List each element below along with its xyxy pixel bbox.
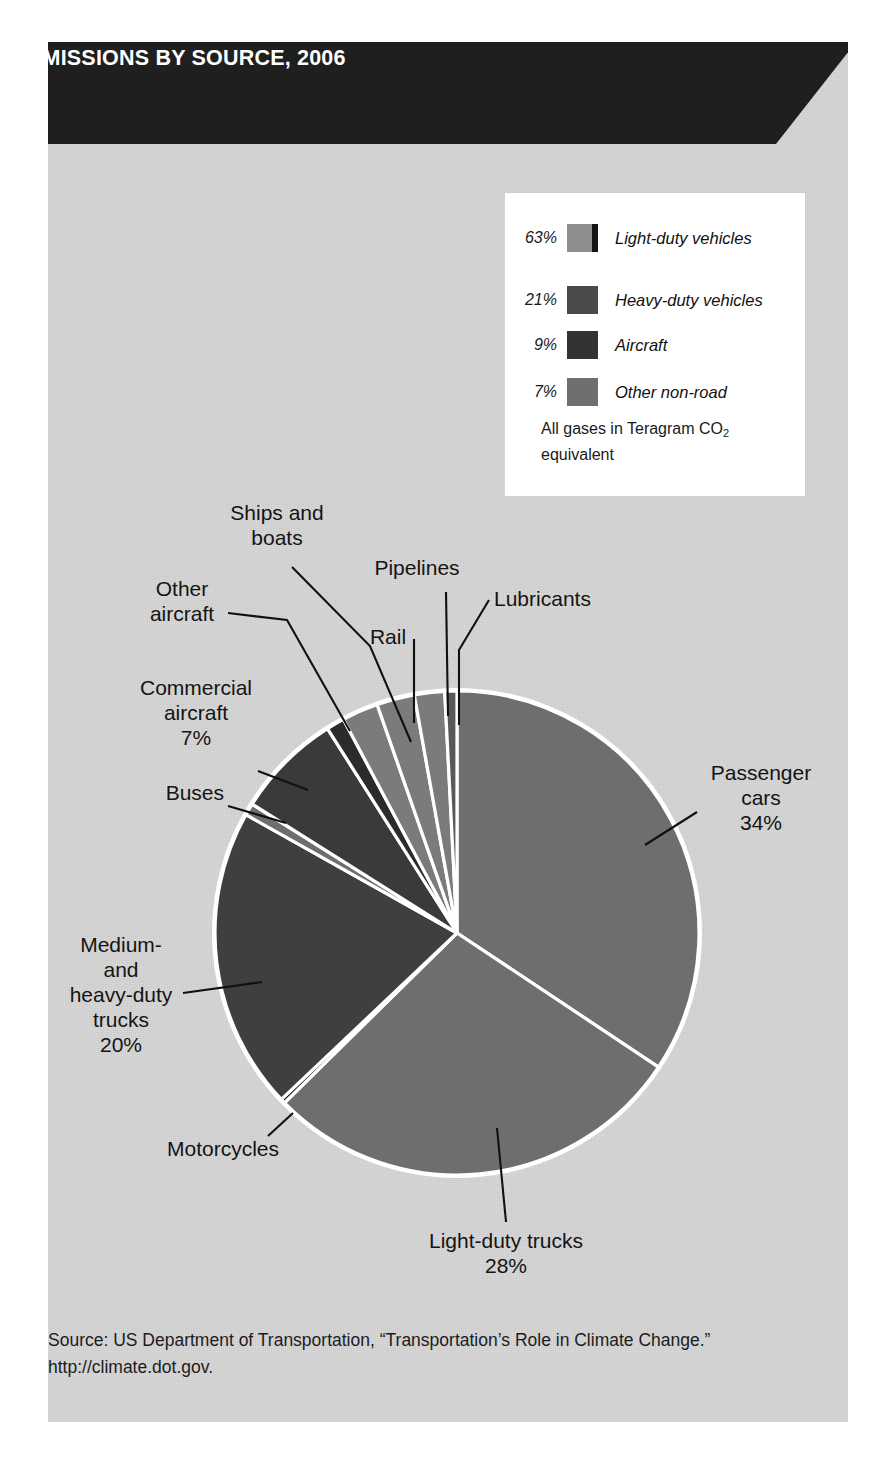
callout-ships-and-boats: Ships and boats bbox=[192, 500, 362, 550]
legend-label-2: Aircraft bbox=[598, 336, 667, 355]
callout-passenger-cars: Passenger cars 34% bbox=[686, 760, 836, 835]
legend-swatch-1 bbox=[567, 286, 598, 314]
title-line-2: EMISSIONS BY SOURCE, 2006 bbox=[28, 44, 847, 72]
title-line-1: US TRANSPORTATION GREENHOUSE GAS bbox=[28, 18, 479, 42]
callout-commercial-aircraft: Commercial aircraft 7% bbox=[106, 675, 286, 750]
page-title: US TRANSPORTATION GREENHOUSE GAS EMISSIO… bbox=[28, 16, 847, 72]
legend-note-subscript: 2 bbox=[723, 427, 729, 439]
legend-pct-0: 63% bbox=[505, 229, 567, 247]
callout-lubricants: Lubricants bbox=[494, 586, 634, 611]
legend-box: 63% Light-duty vehicles 21% Heavy-duty v… bbox=[505, 193, 805, 496]
source-line-1: Source: US Department of Transportation,… bbox=[48, 1327, 788, 1354]
callout-other-aircraft: Other aircraft bbox=[128, 576, 236, 626]
callout-buses: Buses bbox=[92, 780, 224, 805]
legend-swatch-2 bbox=[567, 331, 598, 359]
legend-label-3: Other non-road bbox=[598, 383, 727, 402]
legend-pct-3: 7% bbox=[505, 383, 567, 401]
source-line-2: http://climate.dot.gov. bbox=[48, 1354, 788, 1381]
callout-medium-heavy-trucks: Medium- and heavy-duty trucks 20% bbox=[58, 932, 184, 1057]
callout-pipelines: Pipelines bbox=[357, 555, 477, 580]
callout-rail: Rail bbox=[357, 624, 419, 649]
legend-item-1: 21% Heavy-duty vehicles bbox=[505, 283, 805, 317]
legend-swatch-3 bbox=[567, 378, 598, 406]
callout-light-duty-trucks: Light-duty trucks 28% bbox=[392, 1228, 620, 1278]
legend-pct-1: 21% bbox=[505, 291, 567, 309]
legend-item-2: 9% Aircraft bbox=[505, 328, 805, 362]
source-note: Source: US Department of Transportation,… bbox=[48, 1327, 788, 1381]
legend-note-line-1: All gases in Teragram CO bbox=[541, 420, 723, 437]
callout-motorcycles: Motorcycles bbox=[140, 1136, 306, 1161]
legend-swatch-0 bbox=[567, 224, 598, 252]
legend-note: All gases in Teragram CO2 equivalent bbox=[541, 418, 791, 466]
legend-note-line-2: equivalent bbox=[541, 446, 614, 463]
legend-pct-2: 9% bbox=[505, 336, 567, 354]
legend-label-0: Light-duty vehicles bbox=[598, 229, 752, 248]
legend-item-0: 63% Light-duty vehicles bbox=[505, 221, 805, 255]
legend-item-3: 7% Other non-road bbox=[505, 375, 805, 409]
legend-swatch-stripe-0 bbox=[592, 224, 598, 252]
legend-label-1: Heavy-duty vehicles bbox=[598, 291, 763, 310]
